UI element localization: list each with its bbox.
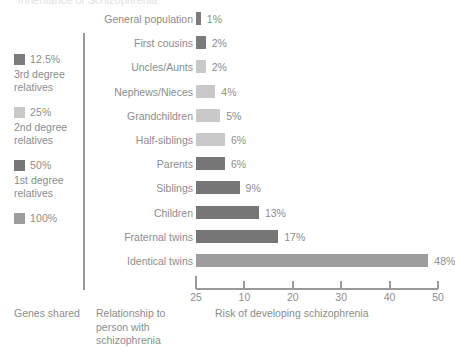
category-label: General population bbox=[96, 8, 193, 30]
bar[interactable] bbox=[196, 109, 220, 122]
x-axis-tick-label: 10 bbox=[229, 291, 259, 303]
caption-relationship-line1: Relationship to bbox=[96, 307, 186, 321]
bar[interactable] bbox=[196, 157, 225, 170]
x-axis-tick bbox=[292, 281, 294, 289]
bar[interactable] bbox=[196, 85, 215, 98]
category-label: Fraternal twins bbox=[96, 226, 193, 248]
category-label: Identical twins bbox=[96, 250, 193, 272]
caption-relationship-line2: person with bbox=[96, 321, 186, 335]
bar-value-label: 5% bbox=[226, 105, 241, 127]
category-label: First cousins bbox=[96, 32, 193, 54]
bar[interactable] bbox=[196, 230, 278, 243]
bar[interactable] bbox=[196, 181, 240, 194]
bar-value-label: 13% bbox=[265, 202, 286, 224]
category-label: Half-siblings bbox=[96, 129, 193, 151]
x-axis-tick-label: 25 bbox=[181, 291, 211, 303]
bar-value-label: 6% bbox=[231, 129, 246, 151]
category-label: Uncles/Aunts bbox=[96, 56, 193, 78]
caption-relationship-line3: schizophrenia bbox=[96, 334, 186, 348]
bar[interactable] bbox=[196, 36, 206, 49]
category-label: Grandchildren bbox=[96, 105, 193, 127]
bar-value-label: 2% bbox=[212, 32, 227, 54]
bar[interactable] bbox=[196, 206, 259, 219]
x-axis-tick-label: 30 bbox=[326, 291, 356, 303]
x-axis-line bbox=[196, 288, 438, 290]
x-axis-tick-label: 50 bbox=[423, 291, 453, 303]
category-label: Siblings bbox=[96, 177, 193, 199]
x-axis-tick-label: 40 bbox=[375, 291, 405, 303]
x-axis-tick bbox=[243, 281, 245, 289]
caption-genes-shared: Genes shared bbox=[14, 307, 80, 319]
category-label: Nephews/Nieces bbox=[96, 81, 193, 103]
bar[interactable] bbox=[196, 12, 201, 25]
x-axis-tick bbox=[389, 281, 391, 289]
bar-value-label: 9% bbox=[246, 177, 261, 199]
category-label: Children bbox=[96, 202, 193, 224]
bar-value-label: 6% bbox=[231, 153, 246, 175]
x-axis-tick-label: 20 bbox=[278, 291, 308, 303]
bar[interactable] bbox=[196, 254, 428, 267]
caption-relationship: Relationship to person with schizophreni… bbox=[96, 307, 186, 348]
category-label: Parents bbox=[96, 153, 193, 175]
bar-value-label: 1% bbox=[207, 8, 222, 30]
bar-value-label: 4% bbox=[221, 81, 236, 103]
bar[interactable] bbox=[196, 60, 206, 73]
x-axis-tick bbox=[437, 281, 439, 289]
x-axis-tick bbox=[340, 281, 342, 289]
x-axis-title: Risk of developing schizophrenia bbox=[215, 307, 369, 319]
bar-value-label: 2% bbox=[212, 56, 227, 78]
bar[interactable] bbox=[196, 133, 225, 146]
bar-value-label: 48% bbox=[434, 250, 455, 272]
bar-value-label: 17% bbox=[284, 226, 305, 248]
